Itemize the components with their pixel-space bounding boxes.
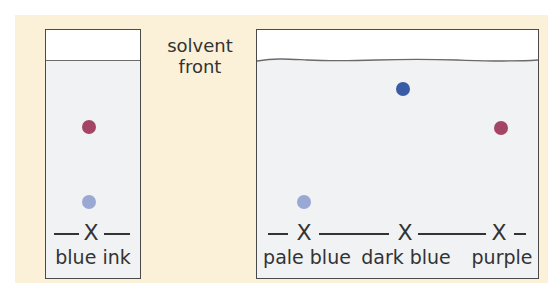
right-origin-cross-dark-blue: X	[397, 222, 412, 244]
right-label-purple: purple	[472, 247, 533, 267]
right-origin-line-seg2	[319, 233, 389, 235]
caption-line-2: front	[160, 56, 240, 77]
right-origin-line-seg4	[514, 233, 526, 235]
right-label-dark-blue: dark blue	[361, 247, 451, 267]
left-solvent-front-line	[46, 60, 140, 61]
right-origin-line-seg3	[418, 233, 486, 235]
left-origin-line-right	[104, 233, 130, 235]
left-solvent-top-region	[46, 30, 140, 60]
solvent-front-caption: solvent front	[160, 35, 240, 77]
left-pale-blue-spot	[82, 195, 96, 209]
left-origin-cross: X	[83, 222, 98, 244]
right-dark-blue-spot	[396, 82, 410, 96]
left-sample-label: blue ink	[55, 247, 130, 267]
left-origin-line-left	[54, 233, 79, 235]
right-origin-cross-pale-blue: X	[296, 222, 311, 244]
right-origin-cross-purple: X	[491, 222, 506, 244]
right-pale-blue-spot	[297, 195, 311, 209]
right-origin-line-seg1	[268, 233, 288, 235]
right-solvent-front-wavy-line	[257, 56, 538, 64]
right-purple-spot	[494, 121, 508, 135]
left-red-purple-spot	[82, 120, 96, 134]
right-label-pale-blue: pale blue	[263, 247, 351, 267]
caption-line-1: solvent	[160, 35, 240, 56]
